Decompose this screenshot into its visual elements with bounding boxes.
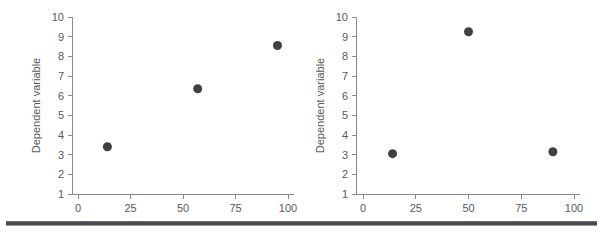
data-point (103, 142, 112, 151)
y-tick-label: 3 (342, 149, 348, 161)
data-point (464, 27, 473, 36)
right-scatter-plot: 123456789100255075100Dependent variable (285, 0, 587, 215)
left-scatter-plot: 123456789100255075100Dependent variable (0, 0, 302, 215)
x-tick-label: 0 (360, 202, 366, 214)
y-tick-label: 10 (52, 11, 64, 23)
y-tick-label: 2 (58, 168, 64, 180)
y-tick-label: 2 (342, 168, 348, 180)
y-tick-label: 8 (342, 50, 348, 62)
data-point (388, 149, 397, 158)
y-tick-label: 3 (58, 149, 64, 161)
data-point (193, 84, 202, 93)
x-tick-label: 25 (410, 202, 422, 214)
y-tick-label: 6 (342, 90, 348, 102)
y-tick-label: 4 (58, 129, 64, 141)
y-tick-label: 7 (342, 70, 348, 82)
y-axis-title: Dependent variable (314, 58, 326, 153)
figure-container: 123456789100255075100Dependent variable … (0, 0, 603, 237)
y-tick-label: 1 (58, 188, 64, 200)
x-tick-label: 50 (462, 202, 474, 214)
x-tick-label: 50 (177, 202, 189, 214)
x-tick-label: 25 (124, 202, 136, 214)
y-tick-label: 5 (342, 109, 348, 121)
y-tick-label: 1 (342, 188, 348, 200)
y-tick-label: 9 (342, 31, 348, 43)
y-axis-title: Dependent variable (30, 58, 42, 153)
y-tick-label: 7 (58, 70, 64, 82)
bottom-divider-rule (6, 221, 597, 226)
y-tick-label: 5 (58, 109, 64, 121)
data-point (273, 41, 282, 50)
data-point (548, 147, 557, 156)
x-tick-label: 0 (75, 202, 81, 214)
y-tick-label: 6 (58, 90, 64, 102)
x-tick-label: 75 (229, 202, 241, 214)
y-tick-label: 8 (58, 50, 64, 62)
x-tick-label: 100 (565, 202, 583, 214)
right-scatter-panel: 123456789100255075100Dependent variable (285, 0, 587, 215)
y-tick-label: 10 (336, 11, 348, 23)
y-tick-label: 9 (58, 31, 64, 43)
y-tick-label: 4 (342, 129, 348, 141)
x-tick-label: 75 (515, 202, 527, 214)
left-scatter-panel: 123456789100255075100Dependent variable (0, 0, 302, 215)
